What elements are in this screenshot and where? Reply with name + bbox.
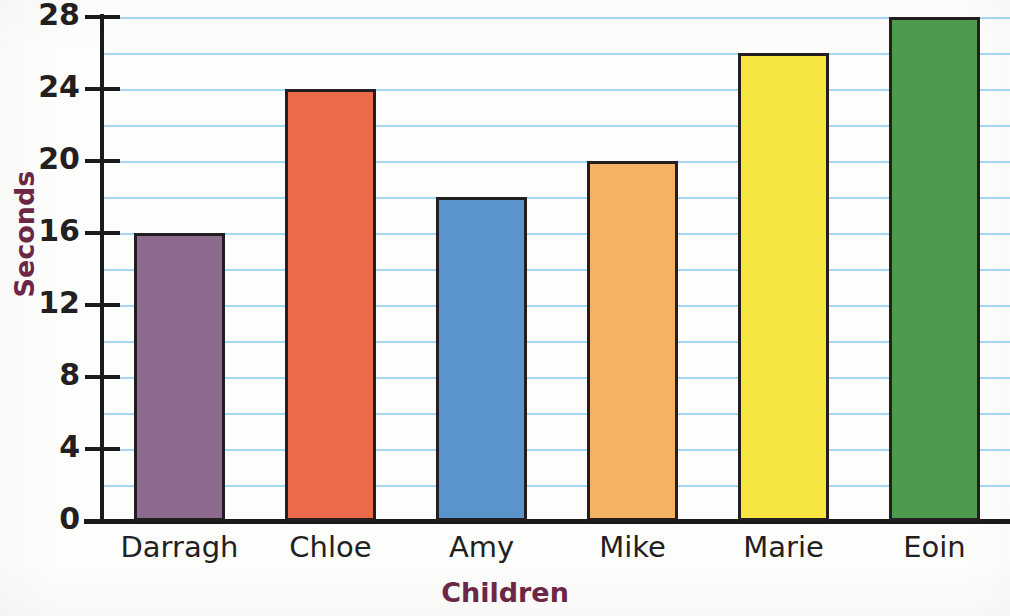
y-axis-tick <box>85 303 120 307</box>
y-axis-tick <box>85 159 120 163</box>
x-axis-title: Children <box>0 577 1010 608</box>
bar-chloe <box>285 89 376 521</box>
y-axis-tick <box>85 231 120 235</box>
category-label-mike: Mike <box>557 530 708 564</box>
y-axis-tick-label: 28 <box>20 0 80 30</box>
y-axis-tick-label: 12 <box>20 288 80 318</box>
category-label-darragh: Darragh <box>104 530 255 564</box>
y-axis-tick <box>85 447 120 451</box>
category-label-marie: Marie <box>708 530 859 564</box>
gridline <box>104 269 1010 271</box>
bar-chart: Seconds 0481216202428 DarraghChloeAmyMik… <box>0 0 1010 616</box>
gridline <box>104 197 1010 199</box>
gridline <box>104 305 1010 307</box>
y-axis-tick <box>85 15 120 19</box>
category-label-chloe: Chloe <box>255 530 406 564</box>
y-axis-tick-labels: 0481216202428 <box>0 0 80 616</box>
gridline <box>104 125 1010 127</box>
plot-area <box>104 17 1010 522</box>
gridline <box>104 161 1010 163</box>
y-axis-tick-label: 8 <box>20 360 80 390</box>
gridline <box>104 89 1010 91</box>
bar-eoin <box>889 17 980 521</box>
category-label-eoin: Eoin <box>859 530 1010 564</box>
y-axis-tick <box>85 87 120 91</box>
y-axis-tick <box>85 375 120 379</box>
bar-marie <box>738 53 829 521</box>
gridline <box>104 377 1010 379</box>
gridline <box>104 53 1010 55</box>
gridline <box>104 449 1010 451</box>
gridline <box>104 413 1010 415</box>
y-axis-tick <box>85 519 120 523</box>
gridline <box>104 17 1010 19</box>
y-axis-tick-label: 0 <box>20 504 80 534</box>
category-label-amy: Amy <box>406 530 557 564</box>
gridline <box>104 341 1010 343</box>
bar-mike <box>587 161 678 521</box>
y-axis-tick-label: 24 <box>20 72 80 102</box>
bar-darragh <box>134 233 225 521</box>
y-axis-tick-label: 4 <box>20 432 80 462</box>
y-axis-tick-label: 20 <box>20 144 80 174</box>
y-axis-tick-label: 16 <box>20 216 80 246</box>
gridline <box>104 233 1010 235</box>
gridline <box>104 485 1010 487</box>
bar-amy <box>436 197 527 521</box>
